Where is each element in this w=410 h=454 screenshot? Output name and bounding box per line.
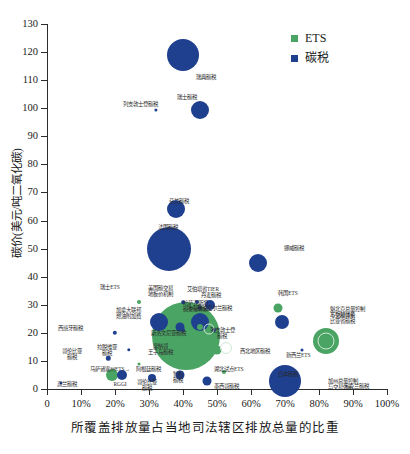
bubble-point[interactable] [249,254,267,272]
data-point-label: 加州总量控制 与交易体系 [328,378,358,390]
x-tick-mark [115,390,116,395]
bubble-point[interactable] [202,376,211,385]
x-tick-label: 100% [365,398,409,409]
legend-swatch-carbon-tax [291,55,298,62]
data-point-label: 瑞士碳税 [177,94,197,100]
legend-swatch-ets [291,35,298,42]
bubble-point[interactable] [167,39,199,71]
data-point-label: 丹麦碳税 [201,292,221,298]
data-point-label: 智利 碳税 [173,371,183,383]
y-tick-label: 30 [2,300,38,310]
data-point-label: 高兰碳税 [57,381,77,387]
bubble-point[interactable] [269,365,301,397]
carbon-price-bubble-chart: 0102030405060708090100110120130 010%20%3… [0,0,410,454]
bubble-inner-ring [220,342,232,354]
x-tick-mark [251,390,252,395]
data-point-label: 日本碳税 [278,371,298,377]
x-tick-mark [319,390,320,395]
bubble-point[interactable] [150,313,168,331]
x-tick-mark [217,390,218,395]
data-point-label: 西班牙碳税 [58,325,83,331]
data-point-label: 美国碳交易 地板价机制 [148,285,173,297]
x-tick-mark [353,390,354,395]
data-point-label: 欧盟ETS [188,370,211,376]
data-point-label: 马萨诸塞州ETS→ [90,366,130,372]
bubble-point[interactable] [191,101,209,119]
data-point-label: 芬兰碳税 [169,198,189,204]
data-point-label: 哈萨克斯坦 碳交易体系 [183,300,208,312]
data-point-label: 魁北克总量控制 与交易体系 [330,306,365,318]
data-point-label: 列支敦士登 碳税 [210,327,235,339]
x-tick-mark [387,390,388,395]
legend-label-ets: ETS [305,32,326,44]
y-tick-label: 10 [2,356,38,366]
data-point-label: 阿根廷碳税 [136,366,161,372]
data-point-label: 湖北试点ETS [214,366,244,372]
legend-label-carbon-tax: 碳税 [305,52,329,64]
bubble-point[interactable] [274,303,283,312]
data-point-label: 新西兰ETS [286,352,311,358]
data-point-label: 挪威碳税 [284,245,304,251]
data-point-label: 西北地区碳税 [240,348,270,354]
bubble-point[interactable] [301,348,304,351]
legend: ETS 碳税 [291,32,329,72]
legend-item-carbon-tax[interactable]: 碳税 [291,52,329,64]
data-point-label: RGGI [113,381,126,387]
x-axis-title: 所覆盖排放量占当地司法辖区排放总量的比重 [0,417,410,436]
data-point-label: 摩纳哥 王子岛碳税 [148,343,173,355]
data-point-label: 拉脱维亚 碳税 [97,344,117,356]
bubble-point[interactable] [147,227,191,271]
y-tick-label: 120 [2,47,38,57]
y-tick-label: 20 [2,328,38,338]
data-point-label: 瑞典碳税 [196,74,216,80]
data-point-label: 哥伦比亚 碳税 [62,348,82,360]
data-point-label: 瑞士ETS [100,284,120,290]
bubble-point[interactable] [137,362,140,365]
x-tick-mark [183,390,184,395]
bubble-point[interactable] [275,315,289,329]
x-tick-mark [47,390,48,395]
data-point-label: 艾伯塔省TIER [187,286,219,292]
data-point-label: 墨西哥碳税 [214,383,239,389]
data-point-label: 哥伦比亚 碳税 [137,379,157,391]
data-point-label: 法国碳税 [158,224,178,230]
data-point-label: 韩国ETS [278,290,298,296]
data-point-label: 加拿大联邦 燃油附加费 [116,307,141,319]
y-axis-title: 碳价(美元/吨二氧化碳) [8,108,24,298]
bubble-point[interactable] [137,300,141,304]
y-tick-label: 110 [2,75,38,85]
data-point-label: 斯洛文尼亚碳税 [151,330,186,336]
y-tick-label: 130 [2,19,38,29]
y-tick-label: 0 [2,384,38,394]
data-point-label: 列支敦士登碳税 [123,101,158,107]
legend-item-ets[interactable]: ETS [291,32,329,44]
bubble-inner-ring [317,333,334,350]
x-tick-mark [81,390,82,395]
data-point-label: 爱尔兰碳税 [207,305,232,311]
